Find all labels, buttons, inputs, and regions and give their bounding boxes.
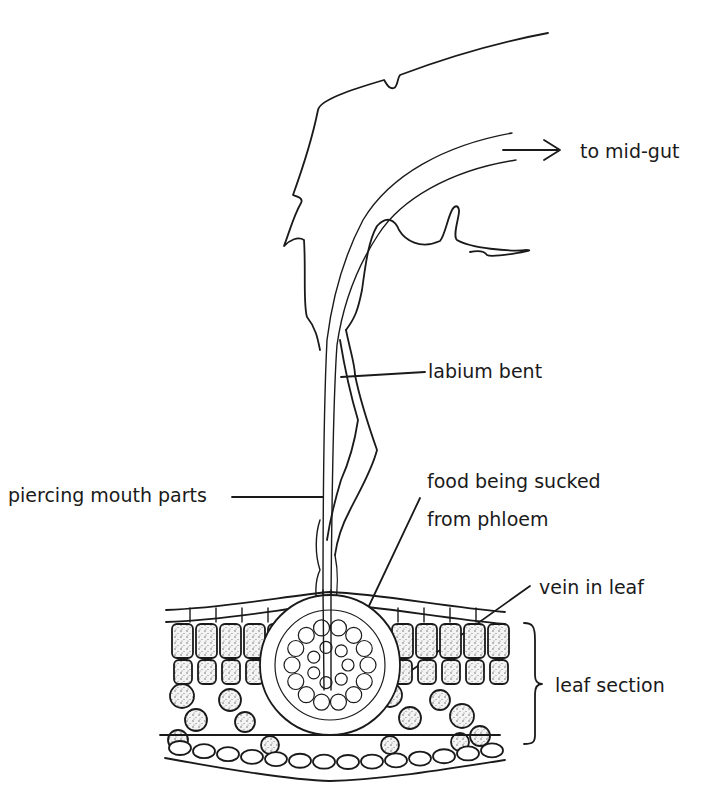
spongy-cell: [185, 709, 207, 731]
leader-food-from-phloem: [368, 498, 420, 608]
spongy-cell: [381, 736, 399, 754]
lower-epidermis-cell: [385, 753, 407, 767]
label-food-being-sucked: food being sucked: [427, 472, 601, 491]
label-vein-in-leaf: vein in leaf: [539, 578, 644, 597]
palisade-cell: [442, 660, 460, 684]
spongy-cell: [450, 704, 474, 728]
palisade-cell: [172, 624, 193, 658]
palisade-cell: [490, 660, 508, 684]
label-labium-bent: labium bent: [428, 362, 542, 381]
aphid-feeding-diagram: to mid-gut labium bent piercing mouth pa…: [0, 0, 705, 801]
label-leaf-section: leaf section: [555, 676, 665, 695]
palisade-cell: [416, 624, 437, 658]
spongy-cell: [235, 712, 255, 732]
lower-epidermis-cell: [433, 749, 455, 763]
leaf-cross-section: [160, 592, 509, 781]
lower-epidermis-cell: [457, 746, 479, 760]
lower-epidermis-cell: [481, 743, 503, 757]
lower-epidermis-cell: [313, 755, 335, 769]
insect-labium-outline: [346, 206, 529, 330]
palisade-cell: [488, 624, 509, 658]
spongy-cell: [399, 707, 421, 729]
leaf-section-brace: [524, 623, 542, 744]
palisade-cell: [466, 660, 484, 684]
spongy-cell: [430, 690, 450, 710]
palisade-cell: [220, 624, 241, 658]
lower-epidermis-cell: [241, 750, 263, 764]
palisade-cell: [464, 624, 485, 658]
labium-sheath: [327, 330, 377, 555]
palisade-cell: [440, 624, 461, 658]
vascular-bundle: [260, 595, 400, 735]
palisade-cell: [174, 660, 192, 684]
palisade-cell: [198, 660, 216, 684]
label-to-mid-gut: to mid-gut: [580, 142, 679, 161]
lower-epidermis-cell: [265, 752, 287, 766]
arrow-to-mid-gut: [503, 140, 560, 160]
insect-head-outline: [284, 33, 548, 350]
lower-epidermis-cell: [217, 747, 239, 761]
lower-epidermis-cell: [361, 755, 383, 769]
lower-epidermis-cell: [193, 744, 215, 758]
lower-epidermis-cell: [289, 754, 311, 768]
spongy-cell: [170, 684, 194, 708]
leader-labium-bent: [341, 372, 425, 377]
label-piercing-mouth-parts: piercing mouth parts: [8, 486, 207, 505]
spongy-cell: [219, 689, 241, 711]
spongy-cell: [470, 726, 490, 746]
lower-epidermis-cell: [169, 741, 191, 755]
palisade-cell: [418, 660, 436, 684]
palisade-cell: [222, 660, 240, 684]
palisade-cell: [196, 624, 217, 658]
lower-epidermis-cell: [337, 755, 359, 769]
label-from-phloem: from phloem: [427, 510, 548, 529]
lower-epidermis-cell: [409, 752, 431, 766]
